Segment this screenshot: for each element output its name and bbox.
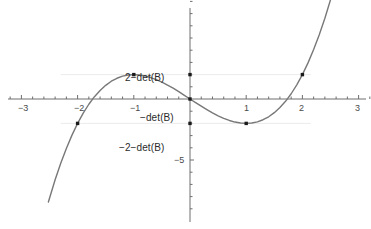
x-tick-label-neg2: −2	[74, 104, 84, 113]
annotation-minus-det: −det(B)	[140, 113, 174, 123]
cubic-function-plot: −3 −2 −1 1 2 3 2−det(B) −det(B) −2−det(B…	[0, 0, 371, 229]
x-tick-label-pos3: 3	[355, 104, 360, 113]
data-point-marker	[245, 122, 248, 125]
y-tick-label-neg5: −5	[174, 156, 184, 165]
data-point-marker	[301, 73, 304, 76]
x-tick-label-neg1: −1	[130, 104, 140, 113]
chart-canvas	[0, 0, 371, 229]
data-point-marker	[188, 73, 191, 76]
x-tick-label-pos2: 2	[299, 104, 304, 113]
axes-group	[8, 8, 366, 222]
annotation-two-minus-det: 2−det(B)	[125, 73, 164, 83]
y-axis-ticks	[190, 1, 194, 208]
data-point-marker	[188, 97, 191, 100]
x-tick-label-pos1: 1	[244, 104, 249, 113]
data-point-marker	[76, 122, 79, 125]
x-tick-label-neg3: −3	[18, 104, 28, 113]
annotation-minus-two-minus-det: −2−det(B)	[119, 143, 164, 153]
data-point-marker	[188, 122, 191, 125]
function-curve	[48, 0, 330, 202]
